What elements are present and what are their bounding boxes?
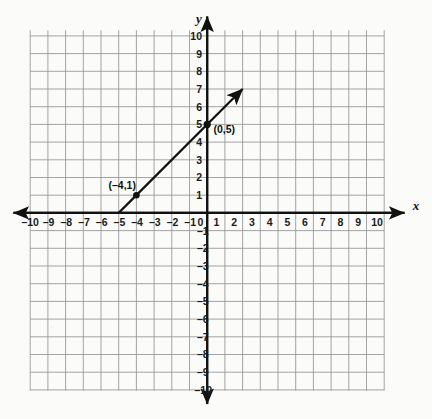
y-tick-label: –7 [197,331,209,343]
y-tick-label: –6 [197,313,209,325]
y-axis-label: y [194,11,202,26]
x-tick-label: 9 [355,216,361,228]
y-tick-label: 4 [196,136,202,148]
x-tick-label: –9 [43,216,55,228]
y-tick-labels-negative: –1 –2 –3 –4 –5 –6 –7 –8 –9 –10 [195,225,213,396]
x-tick-label: –7 [78,216,90,228]
x-tick-label: –4 [131,216,143,228]
y-tick-label: 6 [196,101,202,113]
x-tick-label: 7 [320,216,326,228]
x-axis-label: x [412,198,420,213]
x-tick-label: 1 [214,216,220,228]
x-tick-label: –1 [184,216,196,228]
x-tick-label: 10 [371,216,383,228]
x-tick-label: 4 [267,216,273,228]
y-tick-label: –1 [197,225,209,237]
y-tick-label: 2 [196,171,202,183]
x-tick-label: 8 [337,216,343,228]
x-tick-label: 5 [284,216,290,228]
x-tick-label: –10 [21,216,39,228]
y-tick-label: –4 [197,278,209,290]
point-label-0-5: (0,5) [214,123,236,135]
x-tick-label: 3 [249,216,255,228]
y-tick-label: 1 [196,189,202,201]
y-tick-label: –10 [195,384,213,396]
y-tick-label: –5 [197,295,209,307]
x-tick-label: –3 [149,216,161,228]
y-tick-labels-positive: 10 9 8 7 6 5 4 3 2 1 [190,30,202,201]
y-tick-label: 8 [196,65,202,77]
x-tick-label: 2 [231,216,237,228]
x-tick-label: –6 [96,216,108,228]
graph-page: y x –10 –9 –8 –7 –6 –5 –4 –3 –2 –1 0 1 2… [0,0,432,419]
y-tick-label: 9 [196,48,202,60]
x-tick-label: 6 [302,216,308,228]
x-tick-label: –5 [114,216,126,228]
x-tick-label: –2 [167,216,179,228]
y-tick-label: 10 [190,30,202,42]
y-tick-label: –2 [197,242,209,254]
coordinate-plane-graph: y x –10 –9 –8 –7 –6 –5 –4 –3 –2 –1 0 1 2… [0,0,432,419]
y-tick-label: –3 [197,260,209,272]
point-marker-0-5 [204,121,211,128]
point-marker-minus4-1 [133,192,140,199]
point-label-minus4-1: (–4,1) [109,179,136,191]
y-tick-label: 5 [196,118,202,130]
x-tick-label: –8 [60,216,72,228]
y-tick-label: –8 [197,348,209,360]
y-tick-label: 3 [196,154,202,166]
y-tick-label: –9 [197,366,209,378]
y-tick-label: 7 [196,83,202,95]
